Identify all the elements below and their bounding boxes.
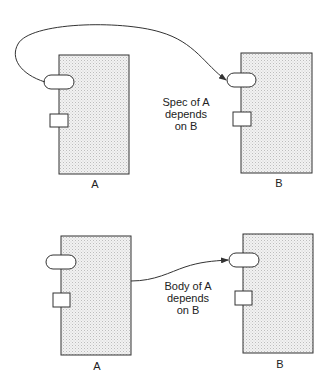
unit-a-small-box xyxy=(50,114,68,127)
unit-b-spec-oval xyxy=(227,73,256,87)
unit-b-small-box xyxy=(233,112,251,126)
unit-b-top: B xyxy=(227,53,312,189)
caption-spec-line1: Spec of A xyxy=(162,96,210,108)
unit-a-label: A xyxy=(93,360,101,372)
unit-b-body-box xyxy=(241,53,312,173)
caption-spec-line2: depends xyxy=(165,108,208,120)
panel-body-dependency: A B Body of A depends on B xyxy=(46,234,313,372)
unit-a-spec-oval xyxy=(44,75,74,89)
unit-a-label: A xyxy=(91,178,99,190)
unit-a-body-box xyxy=(59,55,129,174)
unit-b-label: B xyxy=(275,177,282,189)
unit-a-body-box xyxy=(61,236,131,355)
unit-b-bottom: B xyxy=(229,234,313,370)
unit-a-spec-oval xyxy=(46,255,76,269)
panel-spec-dependency: A B Spec of A depends on B xyxy=(15,25,312,190)
caption-body-line2: depends xyxy=(167,292,210,304)
unit-b-small-box xyxy=(235,291,252,305)
unit-a-bottom: A xyxy=(46,236,131,372)
unit-b-label: B xyxy=(276,358,283,370)
dependency-arrow-body xyxy=(131,260,228,281)
caption-body-line3: on B xyxy=(177,304,200,316)
unit-b-body-box xyxy=(243,234,313,353)
caption-body-line1: Body of A xyxy=(164,280,212,292)
caption-spec-line3: on B xyxy=(175,120,198,132)
unit-a-top: A xyxy=(44,55,129,190)
dependency-diagram: A B Spec of A depends on B A B xyxy=(0,0,334,385)
unit-a-small-box xyxy=(53,293,70,307)
unit-b-spec-oval xyxy=(229,253,259,267)
